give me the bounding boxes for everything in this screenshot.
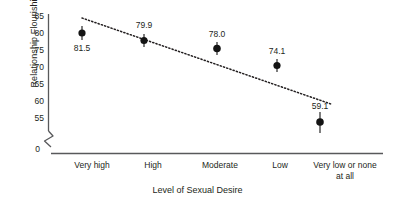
x-axis-title: Level of Sexual Desire [0, 185, 395, 195]
chart-container: Relationship Flourishing Score 85 80 75 … [0, 0, 395, 205]
y-tick-label: 60 [22, 96, 44, 106]
data-point-label: 59.1 [300, 101, 340, 111]
data-point-label: 81.5 [62, 43, 102, 53]
y-tick-label: 85 [22, 11, 44, 21]
data-point-marker [273, 62, 280, 69]
data-point-marker [213, 45, 221, 53]
data-point-group [78, 26, 85, 40]
data-point-group [140, 34, 147, 47]
y-tick-label: 65 [22, 79, 44, 89]
y-tick-label: 70 [22, 62, 44, 72]
data-point-label: 79.9 [124, 20, 164, 30]
data-point-group [273, 59, 280, 72]
x-tick-line-2: at all [336, 171, 354, 181]
y-tick-label: 75 [22, 45, 44, 55]
data-point-label: 74.1 [257, 46, 297, 56]
y-tick-label: 55 [22, 113, 44, 123]
axis-break-zigzag [45, 131, 54, 147]
data-point-marker [78, 29, 85, 36]
x-tick-label-very-low: Very low or noneat all [296, 160, 394, 181]
data-point-group [316, 112, 324, 133]
data-point-label: 78.0 [197, 29, 237, 39]
data-point-marker [316, 118, 324, 126]
x-tick-line-1: Very low or none [313, 160, 376, 170]
axis-break-zero-label: 0 [26, 144, 40, 154]
data-point-group [213, 42, 221, 55]
y-tick-label: 80 [22, 28, 44, 38]
data-point-marker [140, 37, 147, 44]
